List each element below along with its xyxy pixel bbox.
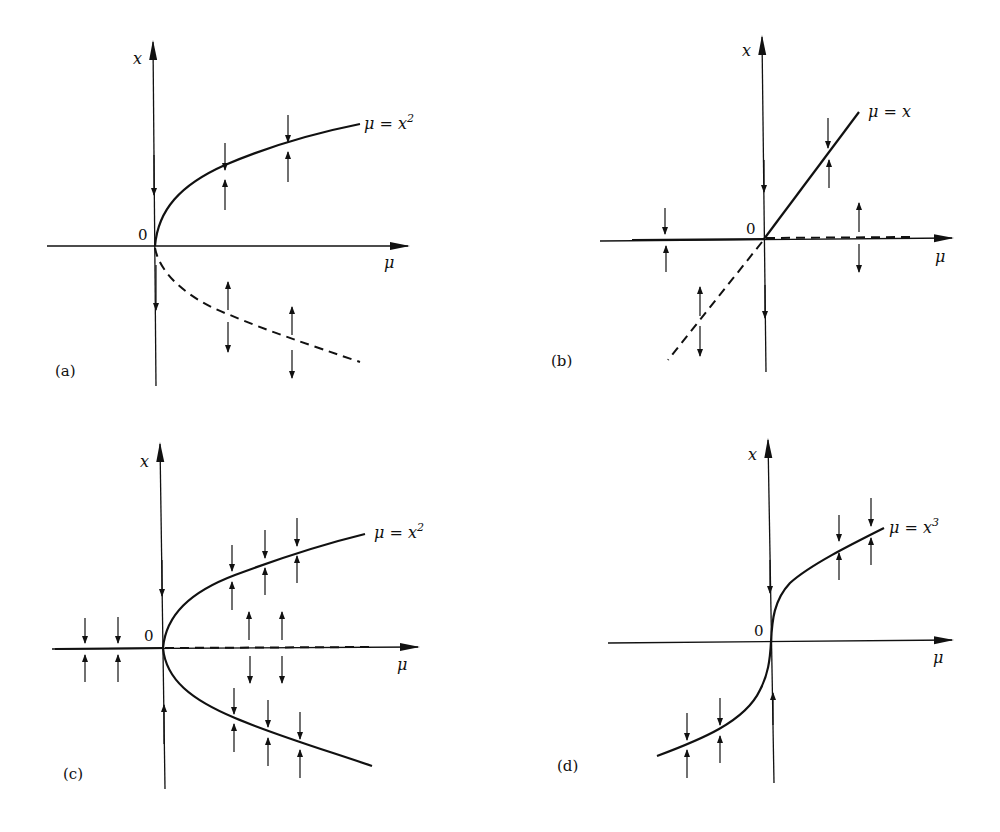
panel-b: x μ 0 μ = x (b) xyxy=(551,37,952,372)
panel-caption: (a) xyxy=(55,362,76,380)
unstable-branch-diagonal xyxy=(668,242,762,360)
curve-label: μ = x3 xyxy=(889,516,939,537)
panel-c: x μ 0 μ = x2 (c) xyxy=(52,444,424,789)
panel-caption: (c) xyxy=(63,765,83,783)
panel-caption: (d) xyxy=(557,757,578,775)
origin-label: 0 xyxy=(754,622,764,640)
curve-label: μ = x2 xyxy=(374,521,424,542)
y-axis-label: x xyxy=(748,445,757,464)
x-axis xyxy=(762,37,766,372)
stable-branch-left xyxy=(632,239,764,240)
x-axis-label: μ xyxy=(397,655,407,674)
y-axis-label: x xyxy=(133,49,142,68)
curve-label: μ = x2 xyxy=(364,112,414,133)
unstable-branch-right xyxy=(766,237,910,238)
curve-label: μ = x xyxy=(868,102,911,121)
stable-branch-upper xyxy=(155,124,360,246)
mu-axis xyxy=(608,640,952,643)
y-axis-label: x xyxy=(742,41,751,60)
origin-label: 0 xyxy=(144,627,154,645)
panel-caption: (b) xyxy=(551,352,572,370)
x-axis xyxy=(153,42,156,386)
panel-d: x μ 0 μ = x3 (d) xyxy=(557,440,952,783)
x-axis-label: μ xyxy=(384,253,394,272)
x-axis-label: μ xyxy=(935,247,945,266)
origin-label: 0 xyxy=(138,226,148,244)
x-axis xyxy=(768,440,774,783)
x-axis-label: μ xyxy=(933,648,943,667)
stable-branch-diagonal xyxy=(764,112,859,239)
origin-label: 0 xyxy=(746,220,756,238)
y-axis-label: x xyxy=(140,452,149,471)
stable-branch-left xyxy=(55,648,163,649)
stable-branch-upper xyxy=(163,534,365,648)
unstable-branch-lower xyxy=(155,248,360,362)
panel-a: x μ 0 μ = x2 (a) xyxy=(47,42,414,386)
bifurcation-figure: x μ 0 μ = x2 (a) x μ 0 μ = x (b) xyxy=(0,0,1000,832)
